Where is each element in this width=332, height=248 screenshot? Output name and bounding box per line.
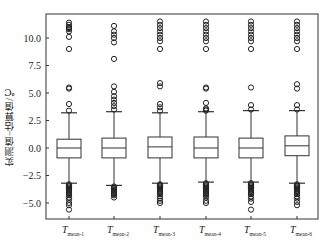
outlier-point bbox=[248, 207, 253, 212]
outlier-point bbox=[157, 19, 162, 24]
box-T_mean-6 bbox=[285, 19, 309, 208]
outlier-point bbox=[66, 46, 71, 51]
iqr-box bbox=[57, 139, 81, 158]
outlier-point bbox=[66, 34, 71, 39]
y-tick-label: 0.0 bbox=[29, 143, 42, 154]
box-T_mean-3 bbox=[148, 19, 172, 206]
iqr-box bbox=[148, 137, 172, 158]
outlier-point bbox=[157, 101, 162, 106]
plot-frame bbox=[46, 14, 318, 219]
outlier-point bbox=[294, 46, 299, 51]
outlier-point bbox=[294, 19, 299, 24]
outlier-point bbox=[157, 46, 162, 51]
outlier-point bbox=[203, 46, 208, 51]
outlier-point bbox=[248, 46, 253, 51]
box-T_mean-1 bbox=[57, 20, 81, 212]
outlier-point bbox=[203, 19, 208, 24]
x-tick-label: Tmean-5 bbox=[244, 224, 266, 237]
y-axis-label: 实测值−估算值/℃ bbox=[2, 62, 18, 192]
outlier-point bbox=[111, 56, 116, 61]
outlier-point bbox=[111, 29, 116, 34]
y-tick-label: 10.0 bbox=[24, 33, 42, 44]
outlier-point bbox=[111, 84, 116, 89]
y-tick-label: 5.0 bbox=[29, 88, 42, 99]
x-tick-label: Tmean-3 bbox=[153, 224, 175, 237]
box-T_mean-4 bbox=[194, 19, 218, 206]
y-tick-label: 7.5 bbox=[29, 60, 42, 71]
outlier-point bbox=[111, 23, 116, 28]
box-T_mean-5 bbox=[239, 19, 263, 212]
y-tick-label: −2.5 bbox=[23, 170, 41, 181]
box-T_mean-2 bbox=[102, 23, 126, 200]
outlier-point bbox=[203, 100, 208, 105]
outlier-point bbox=[248, 19, 253, 24]
plot-border bbox=[46, 14, 318, 219]
outlier-point bbox=[157, 81, 162, 86]
y-tick-label: −5.0 bbox=[23, 198, 41, 209]
iqr-box bbox=[194, 137, 218, 158]
plot-area: −5.0−2.50.02.55.07.510.0 bbox=[0, 0, 332, 248]
y-axis: −5.0−2.50.02.55.07.510.0 bbox=[23, 33, 49, 209]
x-tick-label: Tmean-6 bbox=[290, 224, 312, 237]
x-tick-label: Tmean-4 bbox=[199, 224, 221, 237]
outlier-point bbox=[248, 85, 253, 90]
x-tick-label: Tmean-2 bbox=[107, 224, 129, 237]
boxes bbox=[57, 19, 309, 212]
x-tick-label: Tmean-1 bbox=[62, 224, 84, 237]
outlier-point bbox=[294, 203, 299, 208]
outlier-point bbox=[248, 199, 253, 204]
outlier-point bbox=[66, 101, 71, 106]
y-tick-label: 2.5 bbox=[29, 115, 42, 126]
